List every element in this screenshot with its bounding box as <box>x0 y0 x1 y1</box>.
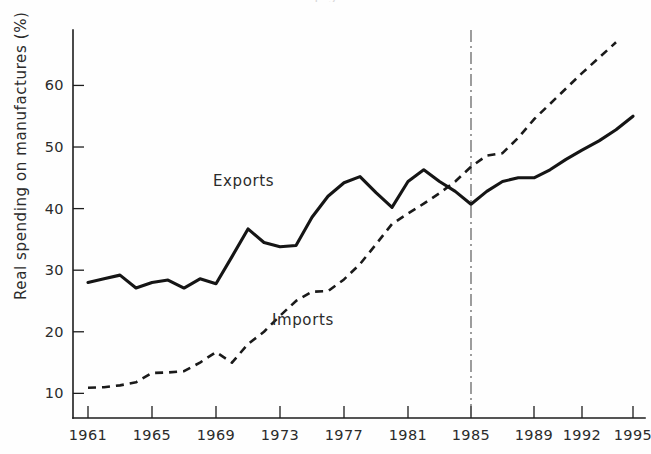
y-axis-ticks: 102030405060 <box>45 77 84 401</box>
axes-group <box>73 30 645 418</box>
figure-container: p g 102030405060 19611965196919731977198… <box>0 0 651 454</box>
y-tick-label: 40 <box>45 201 64 217</box>
x-tick-label: 1981 <box>389 427 428 443</box>
x-tick-label: 1961 <box>69 427 108 443</box>
y-tick-label: 20 <box>45 324 64 340</box>
x-tick-label: 1989 <box>515 427 554 443</box>
x-tick-label: 1973 <box>261 427 300 443</box>
line-chart: 102030405060 196119651969197319771981198… <box>0 0 651 454</box>
y-axis-title: Real spending on manufactures (%) <box>12 12 30 300</box>
x-tick-label: 1969 <box>197 427 236 443</box>
imports-series-line <box>88 42 616 388</box>
x-tick-label: 1965 <box>133 427 172 443</box>
x-tick-label: 1985 <box>452 427 491 443</box>
imports-series-label: Imports <box>272 311 334 329</box>
y-tick-label: 60 <box>45 77 64 93</box>
y-tick-label: 50 <box>45 139 64 155</box>
y-axis-title-text: Real spending on manufactures (%) <box>12 12 30 300</box>
y-tick-label: 10 <box>45 385 64 401</box>
x-tick-label: 1992 <box>563 427 602 443</box>
exports-series-label: Exports <box>213 172 274 190</box>
x-tick-label: 1995 <box>614 427 651 443</box>
x-tick-label: 1977 <box>325 427 364 443</box>
y-tick-label: 30 <box>45 262 64 278</box>
x-axis-ticks: 1961196519691973197719811985198919921995 <box>69 406 651 443</box>
